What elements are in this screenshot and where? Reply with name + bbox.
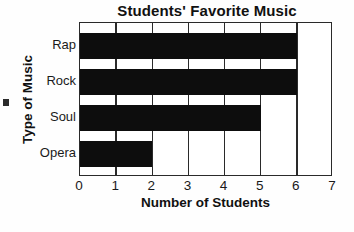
x-tick-label-1: 1 (103, 178, 127, 193)
x-axis-tick-labels: 01234567 (79, 178, 332, 196)
x-tick-label-3: 3 (175, 178, 199, 193)
bars-layer (80, 23, 331, 175)
x-axis-title: Number of Students (79, 195, 332, 210)
x-tick-label-5: 5 (248, 178, 272, 193)
x-tick-label-7: 7 (320, 178, 344, 193)
category-axis-labels: RapRockSoulOpera (0, 22, 76, 176)
bar-rap (80, 33, 297, 59)
y-axis-title: Type of Music (20, 40, 35, 160)
x-tick-label-4: 4 (212, 178, 236, 193)
category-label-rock: Rock (0, 73, 76, 88)
bar-chart-screenshot: Students' Favorite Music RapRockSoulOper… (0, 0, 354, 232)
x-tick-label-0: 0 (67, 178, 91, 193)
bar-rock (80, 69, 297, 95)
bar-opera (80, 141, 152, 167)
x-tick-label-6: 6 (284, 178, 308, 193)
plot-area (79, 22, 332, 176)
category-label-soul: Soul (0, 109, 76, 124)
x-tick-label-2: 2 (139, 178, 163, 193)
category-label-rap: Rap (0, 37, 76, 52)
scan-artifact-mark (3, 99, 9, 106)
chart-title: Students' Favorite Music (60, 2, 354, 19)
category-label-opera: Opera (0, 145, 76, 160)
bar-soul (80, 105, 261, 131)
